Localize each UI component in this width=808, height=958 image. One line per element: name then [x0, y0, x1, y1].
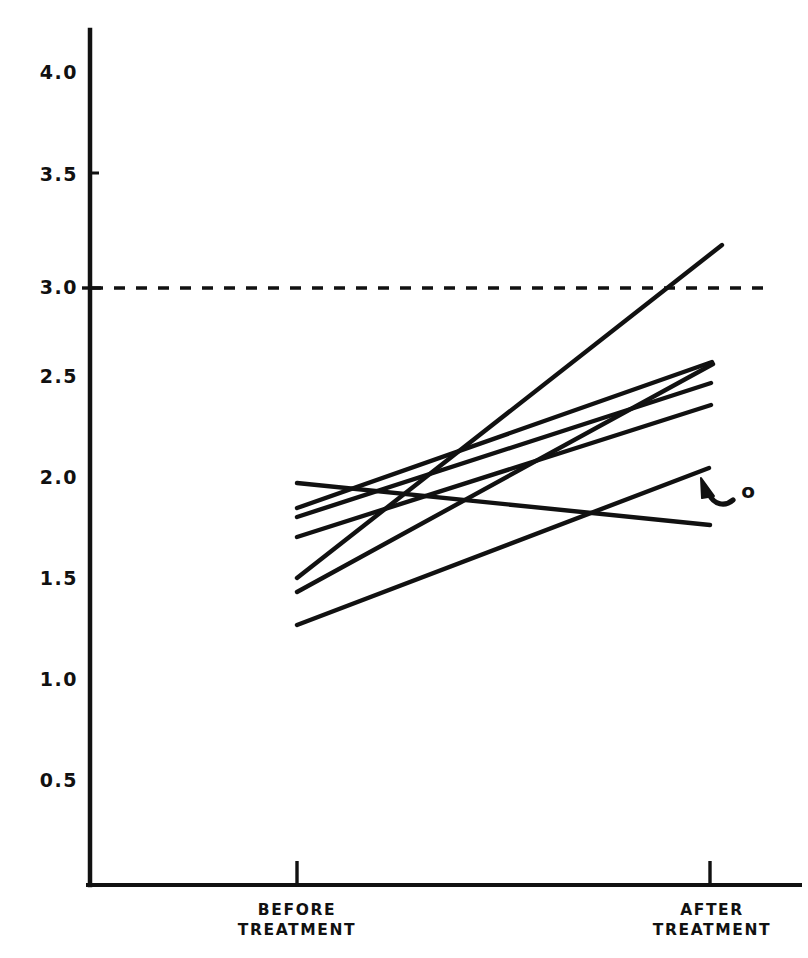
x-tick-label-after-line2: TREATMENT	[653, 920, 771, 940]
y-tick-label-3-0: 3.0	[8, 276, 78, 298]
x-tick-label-after-line1: AFTER	[653, 900, 771, 920]
y-tick-label-1-0: 1.0	[8, 668, 78, 690]
x-tick-label-before: BEFORE TREATMENT	[238, 900, 356, 940]
x-tick-label-before-line2: TREATMENT	[238, 920, 356, 940]
x-tick-label-after: AFTER TREATMENT	[653, 900, 771, 940]
y-tick-label-2-0: 2.0	[8, 466, 78, 488]
x-tick-label-before-line1: BEFORE	[238, 900, 356, 920]
y-tick-label-4-0: 4.0	[8, 61, 78, 83]
series-line-subject-3	[297, 383, 711, 517]
chart-figure: 4.0 3.5 3.0 2.5 2.0 1.5 1.0 0.5 BEFORE T…	[0, 0, 808, 958]
series-line-subject-5	[297, 245, 722, 578]
y-tick-label-2-5: 2.5	[8, 365, 78, 387]
annotation-callout-group	[701, 478, 733, 504]
callout-arrowhead-icon	[701, 478, 714, 498]
y-tick-label-1-5: 1.5	[8, 567, 78, 589]
y-tick-label-0-5: 0.5	[8, 769, 78, 791]
x-axis-ticks	[297, 861, 710, 886]
annotation-marker-o: o	[741, 479, 755, 503]
series-line-subject-6	[297, 364, 713, 592]
data-lines-group	[297, 245, 722, 625]
chart-canvas	[0, 0, 808, 958]
series-line-subject-7	[297, 468, 709, 625]
y-tick-label-3-5: 3.5	[8, 163, 78, 185]
series-line-subject-2	[297, 362, 712, 508]
